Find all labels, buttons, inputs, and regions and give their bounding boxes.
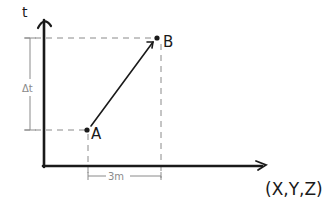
diagram-canvas: Δt 3m t (X,Y,Z) A B [0,0,335,208]
point-a-dot [84,127,89,132]
point-a-label: A [91,125,102,143]
horizontal-axis-label: (X,Y,Z) [265,179,323,199]
distance-bracket [88,172,161,180]
delta-t-label: Δt [22,83,33,94]
displacement-arrow [91,42,153,126]
vertical-axis-label: t [22,4,28,20]
diagram-svg: Δt 3m t (X,Y,Z) A B [0,0,335,208]
point-b-label: B [163,33,173,51]
point-b-dot [154,35,159,40]
distance-label: 3m [108,171,124,182]
